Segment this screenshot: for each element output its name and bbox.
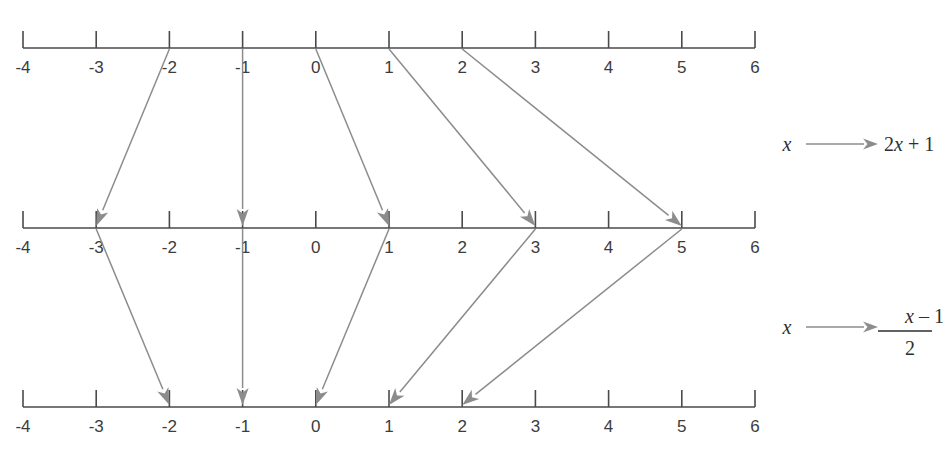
tick-label-middle-0: -4 bbox=[15, 238, 30, 257]
tick-label-bottom-2: -2 bbox=[162, 417, 177, 436]
map-arrow-0-0-shaft bbox=[103, 49, 170, 210]
map-arrow-1-0-head bbox=[157, 387, 169, 405]
tick-label-bottom-9: 5 bbox=[677, 417, 686, 436]
map-arrow-1-2-shaft bbox=[322, 229, 389, 389]
diagram-canvas: -4-3-2-10123456-4-3-2-10123456-4-3-2-101… bbox=[0, 0, 946, 464]
tick-label-middle-2: -2 bbox=[162, 238, 177, 257]
tick-label-bottom-10: 6 bbox=[750, 417, 759, 436]
tick-label-bottom-4: 0 bbox=[311, 417, 320, 436]
map-arrow-0-2-shaft bbox=[316, 49, 383, 210]
tick-label-bottom-5: 1 bbox=[384, 417, 393, 436]
function-input-variable-1: x bbox=[782, 316, 792, 338]
tick-label-bottom-0: -4 bbox=[15, 417, 30, 436]
tick-label-top-7: 3 bbox=[531, 58, 540, 77]
map-arrow-1-2-head bbox=[316, 387, 328, 405]
function-output-expression-0: 2x + 1 bbox=[884, 133, 934, 155]
tick-label-middle-4: 0 bbox=[311, 238, 320, 257]
tick-label-bottom-6: 2 bbox=[457, 417, 466, 436]
map-arrow-0-3-head bbox=[520, 209, 535, 226]
map-arrow-1-4-shaft bbox=[475, 229, 681, 394]
tick-label-middle-7: 3 bbox=[531, 238, 540, 257]
tick-label-middle-9: 5 bbox=[677, 238, 686, 257]
tick-label-top-9: 5 bbox=[677, 58, 686, 77]
tick-label-bottom-1: -3 bbox=[89, 417, 104, 436]
tick-label-top-5: 1 bbox=[384, 58, 393, 77]
map-arrow-1-4 bbox=[462, 229, 682, 405]
tick-label-top-4: 0 bbox=[311, 58, 320, 77]
map-arrow-0-2 bbox=[316, 49, 389, 226]
map-arrow-0-4-shaft bbox=[462, 49, 668, 215]
map-arrow-1-4-head bbox=[462, 390, 479, 405]
map-arrow-1-2 bbox=[316, 229, 389, 405]
map-arrow-0-0 bbox=[96, 49, 169, 226]
map-arrow-0-4 bbox=[462, 49, 682, 226]
map-arrow-1-3-head bbox=[389, 388, 404, 405]
tick-label-middle-8: 4 bbox=[604, 238, 613, 257]
tick-label-top-6: 2 bbox=[457, 58, 466, 77]
map-arrow-1-3-shaft bbox=[400, 229, 536, 392]
function-output-numerator-1: x – 1 bbox=[904, 305, 944, 327]
tick-label-bottom-8: 4 bbox=[604, 417, 613, 436]
tick-label-middle-6: 2 bbox=[457, 238, 466, 257]
tick-label-bottom-7: 3 bbox=[531, 417, 540, 436]
function-rule-function-x-minus-1-over-2: xx – 12 bbox=[782, 305, 944, 359]
function-rule-function-2x-plus-1: x2x + 1 bbox=[782, 133, 935, 155]
map-arrow-1-0-shaft bbox=[96, 229, 163, 389]
function-input-variable-0: x bbox=[782, 133, 792, 155]
function-output-denominator-1: 2 bbox=[905, 337, 915, 359]
function-arrow-head-0 bbox=[863, 139, 878, 150]
tick-label-top-10: 6 bbox=[750, 58, 759, 77]
number-line-mapping-diagram: -4-3-2-10123456-4-3-2-10123456-4-3-2-101… bbox=[0, 0, 946, 464]
tick-label-bottom-3: -1 bbox=[235, 417, 250, 436]
function-arrow-head-1 bbox=[863, 322, 878, 333]
tick-label-top-0: -4 bbox=[15, 58, 30, 77]
map-arrow-0-0-head bbox=[96, 208, 108, 226]
tick-label-top-1: -3 bbox=[89, 58, 104, 77]
tick-label-middle-5: 1 bbox=[384, 238, 393, 257]
map-arrow-1-0 bbox=[96, 229, 169, 405]
tick-label-top-8: 4 bbox=[604, 58, 613, 77]
map-arrow-0-4-head bbox=[665, 211, 682, 226]
map-arrow-0-2-head bbox=[377, 208, 389, 226]
number-line-bottom: -4-3-2-10123456 bbox=[15, 390, 759, 436]
number-line-top: -4-3-2-10123456 bbox=[15, 31, 759, 77]
tick-label-middle-10: 6 bbox=[750, 238, 759, 257]
